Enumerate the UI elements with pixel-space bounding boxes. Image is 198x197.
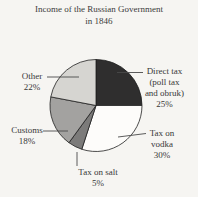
chart-figure: Income of the Russian Government in 1846… bbox=[0, 0, 198, 197]
callout-salt-pct: 5% bbox=[68, 178, 128, 189]
callout-vodka: Tax on vodka 30% bbox=[139, 128, 185, 161]
callout-salt: Tax on salt 5% bbox=[68, 167, 128, 189]
callout-vodka-line1: Tax on bbox=[139, 128, 185, 139]
callout-other-label: Other bbox=[12, 71, 52, 82]
callout-other-pct: 22% bbox=[12, 82, 52, 93]
callout-direct-tax-line3: and obruk) bbox=[136, 88, 193, 99]
callout-direct-tax-line2: (poll tax bbox=[136, 77, 193, 88]
callout-direct-tax: Direct tax (poll tax and obruk) 25% bbox=[136, 66, 193, 110]
callout-salt-label: Tax on salt bbox=[68, 167, 128, 178]
callout-direct-tax-pct: 25% bbox=[136, 99, 193, 110]
callout-customs-pct: 18% bbox=[8, 136, 46, 147]
callout-vodka-line2: vodka bbox=[139, 139, 185, 150]
pie-slices-group bbox=[50, 59, 142, 151]
callout-customs: Customs 18% bbox=[8, 125, 46, 147]
callout-vodka-pct: 30% bbox=[139, 150, 185, 161]
callout-direct-tax-line1: Direct tax bbox=[136, 66, 193, 77]
callout-customs-label: Customs bbox=[8, 125, 46, 136]
callout-other: Other 22% bbox=[12, 71, 52, 93]
